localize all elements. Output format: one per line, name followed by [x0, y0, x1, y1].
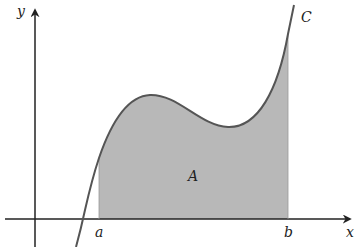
- upper-bound-label: b: [284, 224, 293, 240]
- area-label: A: [186, 168, 198, 184]
- lower-bound-label: a: [95, 224, 103, 240]
- y-axis-label: y: [16, 3, 26, 19]
- curve-label: C: [301, 9, 312, 25]
- x-axis-label: x: [346, 224, 354, 240]
- shaded-area: [99, 34, 288, 219]
- area-diagram: y x C A a b: [0, 0, 357, 247]
